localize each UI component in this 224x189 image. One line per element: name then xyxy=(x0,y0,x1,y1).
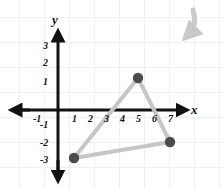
vertex-point-b xyxy=(133,73,143,83)
y-tick-label-neg3: -3 xyxy=(40,155,48,165)
y-tick-label-2: 2 xyxy=(43,58,48,68)
x-tick-label-6: 6 xyxy=(152,114,157,124)
x-tick-label-2: 2 xyxy=(88,114,93,124)
vertex-point-a xyxy=(69,153,79,163)
x-tick-label-7: 7 xyxy=(168,114,173,124)
y-tick-label-3: 3 xyxy=(43,41,48,51)
x-tick-label-4: 4 xyxy=(120,114,125,124)
x-axis-label: x xyxy=(191,103,198,116)
y-tick-label-1: 1 xyxy=(43,77,48,87)
x-tick-label-1: 1 xyxy=(72,114,77,124)
y-axis-label: y xyxy=(52,13,58,26)
y-tick-label-neg2: -2 xyxy=(40,138,48,148)
y-tick-label-neg1: -1 xyxy=(40,120,48,130)
x-tick-label-5: 5 xyxy=(136,114,141,124)
x-tick-label-3: 3 xyxy=(104,114,109,124)
coordinate-plane xyxy=(0,0,224,189)
rotation-arrow-icon xyxy=(189,10,195,34)
graph-canvas: x y -1 1 2 3 4 5 6 7 3 2 1 -1 -2 -3 xyxy=(0,0,224,189)
vertex-point-c xyxy=(165,137,175,147)
